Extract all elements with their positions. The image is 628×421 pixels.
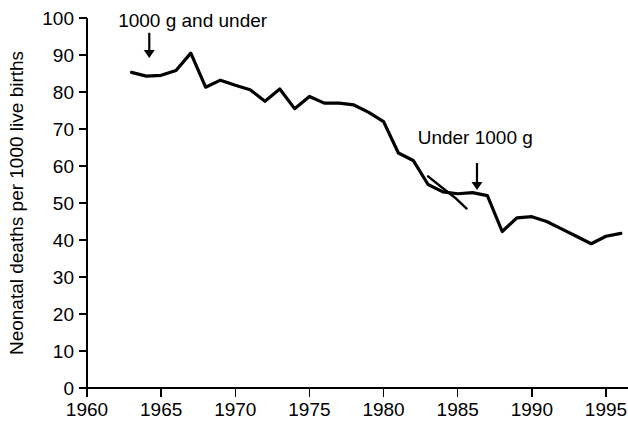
- y-tick-label-90: 90: [53, 45, 74, 66]
- y-axis-title: Neonatal deaths per 1000 live births: [6, 51, 27, 355]
- annotation-1000g-and-under-label: 1000 g and under: [118, 10, 268, 31]
- chart-container: 0102030405060708090100 19601965197019751…: [0, 0, 628, 421]
- y-tick-label-80: 80: [53, 82, 74, 103]
- y-tick-label-0: 0: [63, 378, 74, 399]
- annotation-1000g-and-under-arrow-head: [144, 50, 155, 58]
- y-tick-label-40: 40: [53, 230, 74, 251]
- x-tick-label-1980: 1980: [362, 399, 404, 420]
- x-tick-label-1985: 1985: [437, 399, 479, 420]
- y-tick-label-20: 20: [53, 304, 74, 325]
- line-chart: 0102030405060708090100 19601965197019751…: [0, 0, 628, 421]
- x-tick-label-1995: 1995: [585, 399, 627, 420]
- x-axis-ticks: 19601965197019751980198519901995: [66, 388, 627, 420]
- y-tick-label-10: 10: [53, 341, 74, 362]
- y-tick-label-70: 70: [53, 119, 74, 140]
- x-tick-label-1975: 1975: [288, 399, 330, 420]
- x-tick-label-1965: 1965: [140, 399, 182, 420]
- annotation-under-1000g-arrow-head: [471, 182, 482, 190]
- x-tick-label-1960: 1960: [66, 399, 108, 420]
- data-series-group: [131, 53, 620, 244]
- annotations-group: 1000 g and underUnder 1000 g: [118, 10, 533, 190]
- y-tick-label-50: 50: [53, 193, 74, 214]
- y-tick-label-30: 30: [53, 267, 74, 288]
- y-tick-label-60: 60: [53, 156, 74, 177]
- y-axis-ticks: 0102030405060708090100: [42, 8, 87, 399]
- x-tick-label-1970: 1970: [214, 399, 256, 420]
- x-tick-label-1990: 1990: [511, 399, 553, 420]
- y-tick-label-100: 100: [42, 8, 74, 29]
- series-line-primary: [131, 53, 620, 244]
- annotation-under-1000g-label: Under 1000 g: [418, 127, 533, 148]
